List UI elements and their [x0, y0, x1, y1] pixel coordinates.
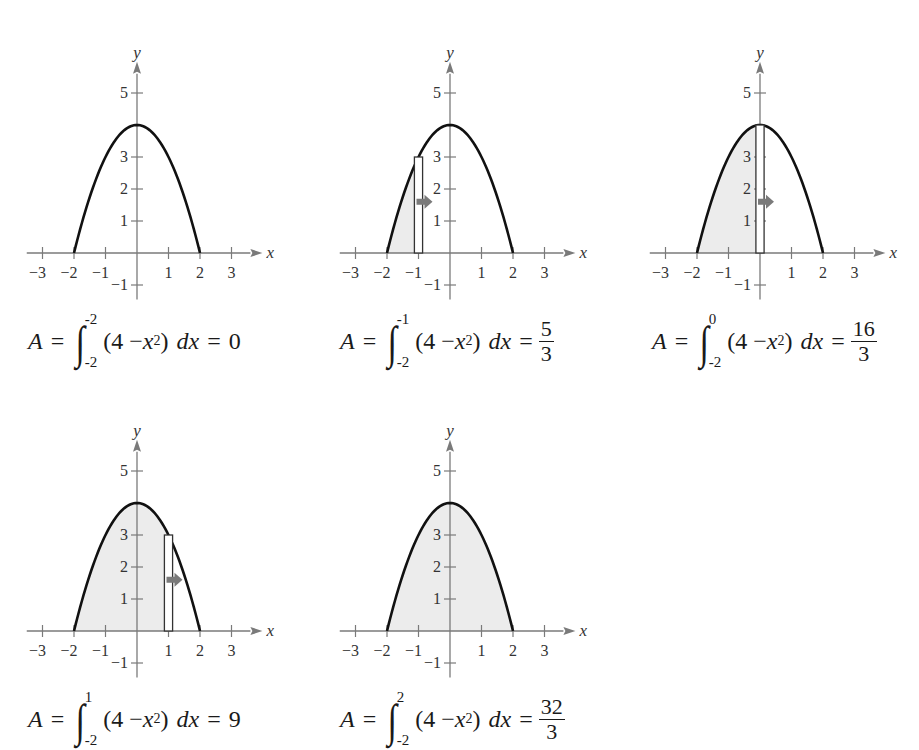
area-symbol: A: [652, 328, 667, 355]
lower-limit: -2: [397, 355, 410, 370]
x-tick-label: 1: [478, 642, 486, 659]
lower-limit: -2: [85, 355, 98, 370]
x-tick-label: −1: [715, 264, 732, 281]
integral-limits: 1 -2: [85, 690, 98, 748]
y-tick-label: 5: [120, 462, 128, 479]
differential: dx: [177, 328, 200, 355]
integrand-close: ): [785, 328, 793, 355]
formula-2: A = ∫ -1 -2 (4 − x2) dx = 5 3: [340, 312, 554, 370]
x-tick-label: −2: [373, 264, 390, 281]
equals-sign: =: [51, 706, 65, 733]
integrand-close: ): [473, 328, 481, 355]
integral-limits: -2 -2: [85, 312, 98, 370]
graph-3: −3−2−1123−11235xy: [0, 0, 919, 750]
equals-sign: =: [207, 328, 221, 355]
y-axis-arrow-icon: [133, 440, 141, 452]
area-symbol: A: [28, 328, 43, 355]
upper-limit: -1: [397, 312, 410, 327]
x-tick-label: 3: [228, 642, 236, 659]
x-tick-label: −2: [683, 264, 700, 281]
representative-rectangle: [414, 157, 422, 253]
y-axis-label: y: [444, 421, 454, 440]
integral-sign-icon: ∫: [700, 320, 709, 366]
equals-sign: =: [363, 328, 377, 355]
right-arrow-icon: [417, 195, 433, 209]
formula-3: A = ∫ 0 -2 (4 − x2) dx = 16 3: [652, 312, 877, 370]
integral-limits: 0 -2: [709, 312, 722, 370]
integral-limits: -1 -2: [397, 312, 410, 370]
y-tick-label: 1: [433, 590, 441, 607]
shaded-region: [387, 503, 513, 631]
x-tick-label: 2: [196, 264, 204, 281]
right-arrow-icon: [167, 573, 183, 587]
equals-sign: =: [675, 328, 689, 355]
formula-1: A = ∫ -2 -2 (4 − x2) dx = 0: [28, 312, 241, 370]
y-tick-label: 3: [120, 526, 128, 543]
x-tick-label: 2: [196, 642, 204, 659]
right-arrow-icon: [758, 195, 774, 209]
integrand-open: (4 −: [103, 328, 143, 355]
y-tick-label: 3: [433, 148, 441, 165]
integral-limits: 2 -2: [397, 690, 410, 748]
x-tick-label: −3: [652, 264, 669, 281]
x-tick-label: 1: [165, 642, 173, 659]
equals-sign: =: [363, 706, 377, 733]
denominator: 3: [546, 720, 557, 743]
integral-sign-icon: ∫: [76, 320, 85, 366]
graph-4: −3−2−1123−11235xy: [0, 0, 919, 750]
y-tick-label: 2: [743, 180, 751, 197]
differential: dx: [489, 706, 512, 733]
y-tick-label: 3: [120, 148, 128, 165]
shaded-region: [697, 125, 760, 253]
x-axis-label: x: [265, 243, 274, 262]
exponent: 2: [154, 711, 161, 727]
x-tick-label: −3: [342, 264, 359, 281]
differential: dx: [489, 328, 512, 355]
result-fraction: 16 3: [851, 317, 877, 364]
x-tick-label: −3: [342, 642, 359, 659]
graph-2: −3−2−1123−11235xy: [0, 0, 919, 750]
shaded-region: [74, 503, 169, 631]
x-axis-arrow-icon: [563, 249, 575, 257]
integral-sign-icon: ∫: [76, 698, 85, 744]
equals-sign: =: [519, 706, 533, 733]
result-value: 9: [229, 706, 241, 733]
x-tick-label: −1: [92, 264, 109, 281]
equals-sign: =: [51, 328, 65, 355]
area-symbol: A: [340, 328, 355, 355]
x-tick-label: −3: [29, 264, 46, 281]
x-tick-label: 1: [165, 264, 173, 281]
x-axis-arrow-icon: [873, 249, 885, 257]
integrand-close: ): [473, 706, 481, 733]
x-axis-label: x: [888, 243, 897, 262]
y-tick-label: 5: [743, 84, 751, 101]
x-tick-label: 2: [509, 264, 517, 281]
x-tick-label: −3: [29, 642, 46, 659]
x-tick-label: 2: [819, 264, 827, 281]
variable-x: x: [143, 706, 154, 733]
integrand-open: (4 −: [103, 706, 143, 733]
x-tick-label: −2: [60, 642, 77, 659]
integrand-open: (4 −: [415, 706, 455, 733]
y-tick-label: −1: [111, 276, 128, 293]
x-axis-label: x: [578, 243, 587, 262]
y-tick-label: 3: [433, 526, 441, 543]
numerator: 5: [539, 317, 554, 341]
exponent: 2: [154, 333, 161, 349]
equals-sign: =: [831, 328, 845, 355]
denominator: 3: [858, 342, 869, 365]
numerator: 16: [851, 317, 877, 341]
y-tick-label: 2: [433, 180, 441, 197]
x-tick-label: 3: [541, 642, 549, 659]
area-symbol: A: [28, 706, 43, 733]
y-tick-label: 2: [433, 558, 441, 575]
x-tick-label: 1: [478, 264, 486, 281]
integrand-open: (4 −: [727, 328, 767, 355]
graph-5: −3−2−1123−11235xy: [0, 0, 919, 750]
y-axis-label: y: [131, 421, 141, 440]
y-axis-arrow-icon: [133, 62, 141, 74]
result-value: 0: [229, 328, 241, 355]
x-tick-label: −2: [60, 264, 77, 281]
parabola-curve: [74, 503, 200, 631]
y-axis-arrow-icon: [446, 62, 454, 74]
